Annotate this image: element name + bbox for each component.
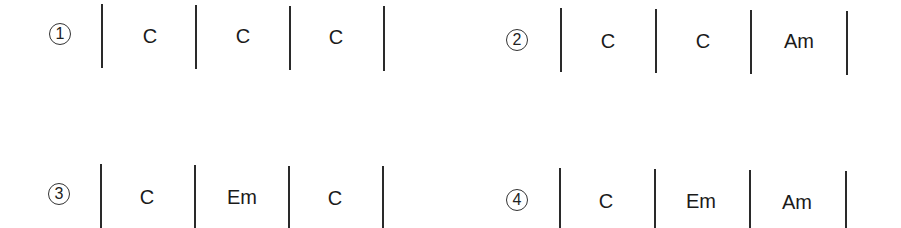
chord: Am — [782, 191, 812, 214]
bar-line — [845, 171, 847, 228]
bar-line — [654, 169, 656, 228]
progression-4: 4 C Em Am — [0, 0, 901, 228]
bar-line — [749, 170, 751, 228]
chord: C — [599, 190, 613, 213]
chord: Em — [686, 190, 716, 213]
option-number-4[interactable]: 4 — [506, 189, 528, 211]
bar-line — [559, 168, 561, 228]
